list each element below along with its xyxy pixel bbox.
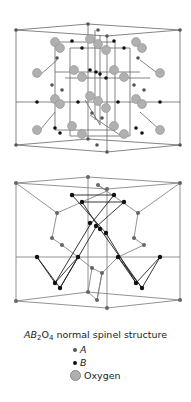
caption-text: normal spinel structure	[53, 329, 167, 340]
legend-label: A	[80, 343, 87, 356]
spinel-unit-cell-full	[0, 0, 191, 160]
legend-item-a: A	[70, 343, 121, 356]
figure-caption: AB2O4 normal spinel structure	[0, 329, 191, 342]
a-site-dot-icon	[73, 348, 77, 352]
legend: A B Oxygen	[70, 343, 121, 382]
legend-item-oxygen: Oxygen	[70, 369, 121, 382]
legend-item-b: B	[70, 356, 121, 369]
spinel-cation-sublattice	[0, 155, 191, 315]
legend-label: B	[80, 356, 87, 369]
b-site-dot-icon	[73, 361, 77, 365]
legend-label: Oxygen	[84, 369, 121, 382]
oxygen-dot-icon	[70, 370, 81, 381]
caption-o: O	[41, 329, 48, 340]
